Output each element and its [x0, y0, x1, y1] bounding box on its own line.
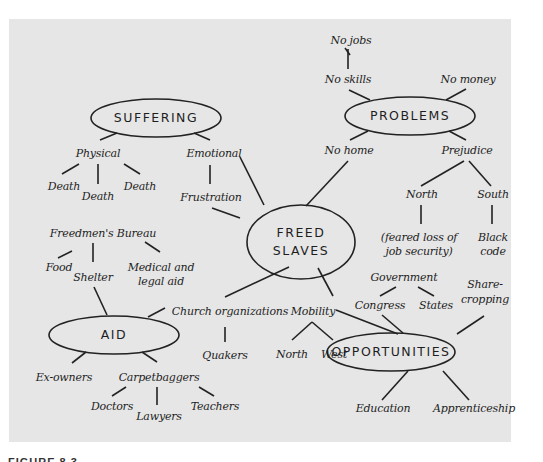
- node-north-mobility: North: [276, 349, 308, 362]
- node-sharecropping-line1: Share-: [467, 279, 502, 292]
- node-food: Food: [46, 262, 73, 275]
- node-black-code-line1: Black: [478, 232, 508, 245]
- node-north-prejudice: North: [406, 189, 438, 202]
- node-church-organizations: Church organizations: [172, 306, 288, 319]
- node-sharecropping-line2: cropping: [461, 294, 509, 307]
- figure-caption: FIGURE 8.3: [8, 455, 78, 462]
- node-feared-loss-line1: (feared loss of: [381, 232, 457, 245]
- node-medical-line1: Medical and: [128, 262, 195, 275]
- node-shelter: Shelter: [73, 272, 112, 285]
- node-frustration: Frustration: [180, 192, 241, 205]
- node-states: States: [419, 300, 453, 313]
- node-education: Education: [356, 403, 411, 416]
- node-teachers: Teachers: [191, 401, 240, 414]
- node-prejudice: Prejudice: [441, 145, 492, 158]
- node-mobility: Mobility: [291, 306, 336, 319]
- node-government: Government: [371, 272, 438, 285]
- node-emotional: Emotional: [186, 148, 241, 161]
- hub-center-line1: FREED: [277, 226, 326, 240]
- node-no-home: No home: [325, 145, 374, 158]
- node-west: West: [321, 349, 347, 362]
- node-death-2: Death: [82, 191, 114, 204]
- hub-opportunities: OPPORTUNITIES: [331, 345, 450, 359]
- hub-aid: AID: [101, 328, 127, 342]
- node-carpetbaggers: Carpetbaggers: [119, 372, 200, 385]
- node-black-code-line2: code: [480, 246, 506, 259]
- hub-problems: PROBLEMS: [370, 109, 450, 123]
- node-doctors: Doctors: [91, 401, 133, 414]
- node-no-money: No money: [440, 74, 495, 87]
- node-medical-line2: legal aid: [138, 276, 184, 289]
- node-physical: Physical: [76, 148, 121, 161]
- node-congress: Congress: [355, 300, 406, 313]
- node-ex-owners: Ex-owners: [36, 372, 93, 385]
- node-no-jobs: No jobs: [330, 35, 371, 48]
- node-freedmens-bureau: Freedmen's Bureau: [50, 228, 156, 241]
- node-lawyers: Lawyers: [136, 411, 182, 424]
- node-death-1: Death: [48, 181, 80, 194]
- node-apprenticeship: Apprenticeship: [433, 403, 515, 416]
- hub-center-line2: SLAVES: [273, 244, 329, 258]
- node-no-skills: No skills: [325, 74, 371, 87]
- node-death-3: Death: [124, 181, 156, 194]
- hub-suffering: SUFFERING: [114, 111, 198, 125]
- node-quakers: Quakers: [202, 350, 247, 363]
- node-south-prejudice: South: [477, 189, 509, 202]
- node-feared-loss-line2: job security): [385, 246, 452, 259]
